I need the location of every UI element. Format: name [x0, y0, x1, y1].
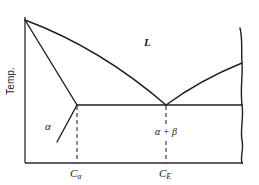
- x-tick-c-e-subscript: E: [166, 172, 171, 181]
- x-tick-c-alpha: Cα: [70, 168, 82, 181]
- phase-label-alpha-beta: α + β: [155, 127, 177, 137]
- y-axis-label: Temp.: [6, 66, 16, 96]
- phase-diagram-svg: [0, 0, 259, 185]
- break-line: [240, 28, 243, 163]
- phase-label-alpha: α: [45, 121, 51, 132]
- phase-label-liquid: L: [144, 37, 151, 48]
- solidus-line: [25, 20, 77, 105]
- liquidus-left-curve: [25, 20, 166, 105]
- solvus-line: [57, 105, 77, 142]
- x-tick-c-e: CE: [159, 168, 171, 181]
- liquidus-right-curve: [166, 63, 242, 105]
- phase-diagram: Temp. L α α + β Cα CE: [0, 0, 259, 185]
- x-tick-c-alpha-subscript: α: [77, 172, 81, 181]
